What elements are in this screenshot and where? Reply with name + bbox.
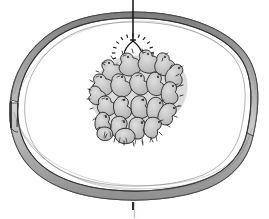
chick — [115, 128, 135, 143]
chick — [131, 96, 149, 119]
figure-caption: | — [0, 209, 269, 218]
brooder-ring-illustration — [0, 0, 269, 219]
figure-root: | — [0, 0, 269, 219]
